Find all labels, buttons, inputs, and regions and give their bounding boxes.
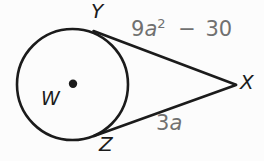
yx-exponent: 2 <box>157 16 165 31</box>
center-point-dot <box>69 80 77 88</box>
point-label-z: Z <box>99 134 113 154</box>
segment-yx-length-label: 9a2 − 30 <box>131 19 232 40</box>
point-label-w: W <box>41 89 60 108</box>
yx-constant-term: − 30 <box>169 17 233 41</box>
zx-coefficient: 3 <box>156 111 169 135</box>
yx-coefficient: 9 <box>131 17 144 41</box>
geometry-diagram-canvas: Y X Z W 9a2 − 30 3a <box>0 0 264 161</box>
yx-variable: a <box>144 17 157 41</box>
point-label-x: X <box>240 72 254 92</box>
segment-zx-length-label: 3a <box>156 113 182 134</box>
point-label-y: Y <box>91 1 103 21</box>
zx-variable: a <box>169 111 182 135</box>
